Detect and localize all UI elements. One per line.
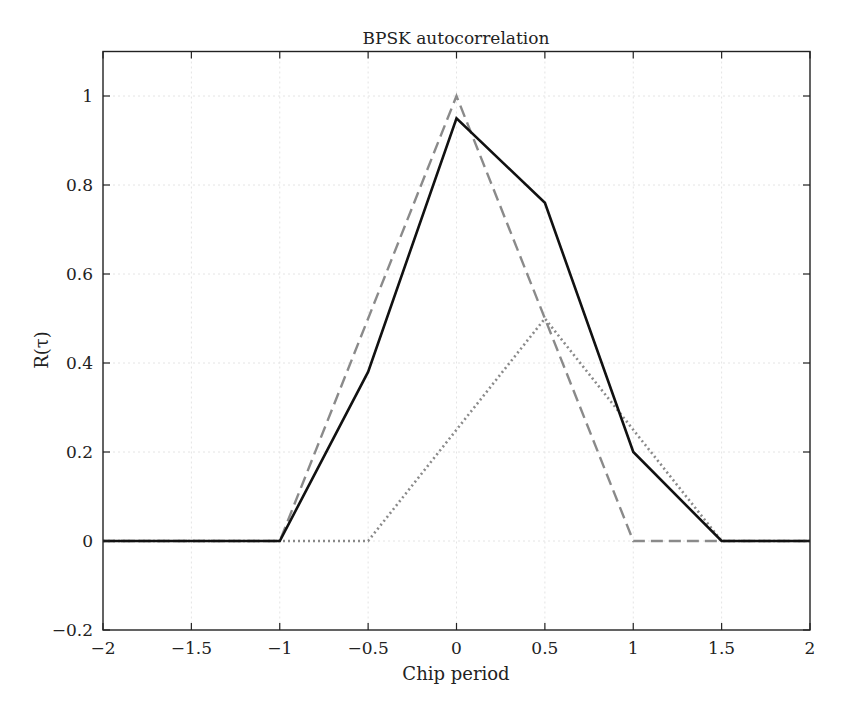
x-axis-label: Chip period	[402, 663, 509, 684]
chart-title: BPSK autocorrelation	[363, 28, 550, 48]
y-tick-label: −0.2	[52, 620, 93, 640]
x-tick-label: 1.5	[708, 638, 735, 658]
y-tick-labels: −0.200.20.40.60.81	[52, 86, 93, 640]
chart-canvas: BPSK autocorrelation −2−1.5−1−0.500.511.…	[0, 0, 846, 723]
x-tick-label: 0.5	[531, 638, 558, 658]
x-tick-label: −2	[90, 638, 115, 658]
grid-lines	[103, 52, 810, 631]
y-axis-label: R(τ)	[31, 331, 52, 369]
x-tick-label: 1	[628, 638, 639, 658]
x-tick-label: −0.5	[347, 638, 388, 658]
x-tick-label: −1	[267, 638, 292, 658]
y-tick-label: 0.6	[66, 264, 93, 284]
y-tick-label: 1	[82, 86, 93, 106]
x-tick-labels: −2−1.5−1−0.500.511.52	[90, 638, 815, 658]
x-tick-label: 2	[805, 638, 816, 658]
y-tick-label: 0.8	[66, 175, 93, 195]
y-tick-label: 0	[82, 531, 93, 551]
y-tick-label: 0.2	[66, 442, 93, 462]
y-tick-label: 0.4	[66, 353, 93, 373]
x-tick-label: 0	[451, 638, 462, 658]
x-tick-label: −1.5	[171, 638, 212, 658]
